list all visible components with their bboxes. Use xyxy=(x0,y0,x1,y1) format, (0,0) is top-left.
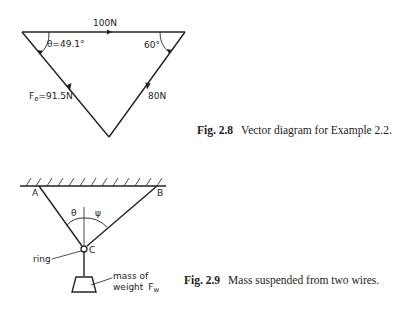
caption-text: Mass suspended from two wires. xyxy=(228,274,379,286)
caption-number: Fig. 2.8 xyxy=(197,124,233,136)
ceiling xyxy=(20,178,166,186)
label-theta-49: θ=49.1° xyxy=(47,39,85,49)
label-ring: ring xyxy=(33,254,51,264)
caption-fig-2-9: Fig. 2.9Mass suspended from two wires. xyxy=(184,274,379,286)
label-60-degrees: 60° xyxy=(144,40,160,50)
ring-icon xyxy=(81,246,87,252)
label-theta: θ xyxy=(71,208,77,218)
ring-leader-line xyxy=(52,251,81,259)
figures-canvas: 100N θ=49.1° 60° 80N Fe=91.5N xyxy=(0,0,415,311)
caption-number: Fig. 2.9 xyxy=(184,274,220,286)
caption-text: Vector diagram for Example 2.2. xyxy=(241,124,392,136)
theta-arc xyxy=(67,218,84,225)
label-mass-of: mass of xyxy=(113,271,149,281)
psi-arc xyxy=(84,218,107,227)
label-point-a: A xyxy=(32,188,39,198)
label-point-c: C xyxy=(89,245,95,255)
mass-leader-line xyxy=(91,278,112,285)
label-psi: ψ xyxy=(95,208,101,218)
arrow-right-icon xyxy=(107,30,112,35)
label-weight-fw: weightFw xyxy=(113,282,160,294)
caption-fig-2-8: Fig. 2.8Vector diagram for Example 2.2. xyxy=(197,124,392,136)
label-80n: 80N xyxy=(148,91,166,101)
label-fe-91-5n: Fe=91.5N xyxy=(29,91,73,103)
label-point-b: B xyxy=(157,188,163,198)
label-100n: 100N xyxy=(93,18,117,28)
